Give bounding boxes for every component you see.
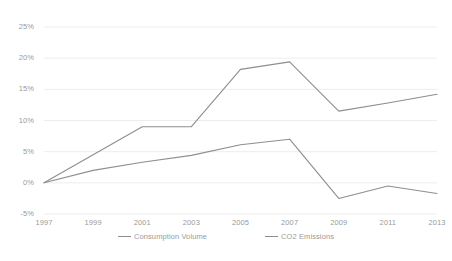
y-tick-label: 0% xyxy=(8,178,34,187)
gridlines xyxy=(44,27,437,214)
y-tick-label: 20% xyxy=(8,53,34,62)
y-tick-label: 15% xyxy=(8,84,34,93)
x-tick-label: 2003 xyxy=(171,218,211,227)
x-tick-label: 2005 xyxy=(221,218,261,227)
y-tick-label: -5% xyxy=(8,209,34,218)
legend-line-icon xyxy=(265,236,278,237)
line-chart: -5%0%5%10%15%20%25% 19971999200120032005… xyxy=(0,0,452,261)
x-tick-label: 2011 xyxy=(368,218,408,227)
legend-line-icon xyxy=(118,236,131,237)
series-line-2 xyxy=(44,62,437,183)
x-tick-label: 2007 xyxy=(270,218,310,227)
series-line-1 xyxy=(44,139,437,198)
legend-label: Consumption Volume xyxy=(134,232,207,241)
series-lines xyxy=(44,62,437,199)
x-tick-label: 2013 xyxy=(417,218,452,227)
x-tick-label: 2001 xyxy=(122,218,162,227)
x-tick-label: 1997 xyxy=(24,218,64,227)
y-tick-label: 10% xyxy=(8,116,34,125)
x-tick-label: 1999 xyxy=(73,218,113,227)
legend-item[interactable]: CO2 Emissions xyxy=(265,232,334,241)
legend-item[interactable]: Consumption Volume xyxy=(118,232,207,241)
x-tick-label: 2009 xyxy=(319,218,359,227)
legend-label: CO2 Emissions xyxy=(281,232,334,241)
y-tick-label: 5% xyxy=(8,147,34,156)
chart-legend: Consumption VolumeCO2 Emissions xyxy=(0,232,452,241)
y-tick-label: 25% xyxy=(8,22,34,31)
